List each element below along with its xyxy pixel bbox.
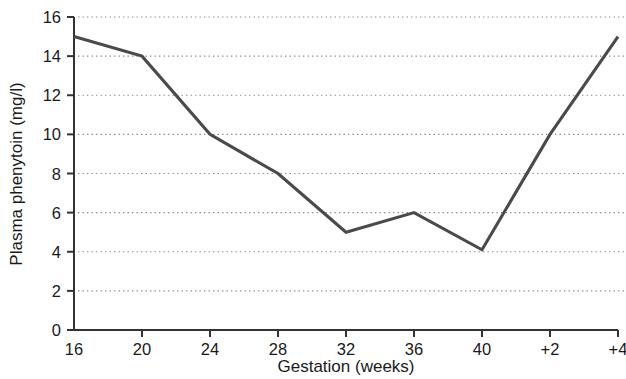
x-tick-label: 16	[65, 340, 83, 358]
y-tick-label: 0	[52, 321, 61, 339]
y-tick-label: 12	[43, 86, 61, 104]
y-tick-label: 2	[52, 282, 61, 300]
gridlines-group	[78, 17, 626, 291]
x-tick-label: 32	[337, 340, 355, 358]
x-axis-ticks	[142, 330, 618, 337]
x-axis-tick-labels: 16202428323640+2+4	[65, 340, 626, 358]
x-tick-label: 36	[405, 340, 423, 358]
y-axis-tick-labels: 0246810121416	[43, 8, 61, 339]
y-axis-ticks	[67, 17, 74, 330]
y-tick-label: 10	[43, 125, 61, 143]
y-tick-label: 14	[43, 47, 61, 65]
x-tick-label: +2	[541, 340, 560, 358]
y-tick-label: 6	[52, 204, 61, 222]
x-tick-label: 28	[269, 340, 287, 358]
chart-container: 0246810121416 16202428323640+2+4 Gestati…	[0, 0, 626, 379]
x-tick-label: 24	[201, 340, 219, 358]
x-tick-label: +4	[609, 340, 626, 358]
y-axis-title: Plasma phenytoin (mg/l)	[7, 82, 26, 265]
y-tick-label: 16	[43, 8, 61, 26]
data-series-line	[74, 37, 618, 250]
x-tick-label: 40	[473, 340, 491, 358]
x-tick-label: 20	[133, 340, 151, 358]
x-axis-title: Gestation (weeks)	[278, 357, 415, 376]
y-tick-label: 8	[52, 165, 61, 183]
line-chart-svg: 0246810121416 16202428323640+2+4 Gestati…	[0, 0, 626, 379]
y-tick-label: 4	[52, 243, 61, 261]
